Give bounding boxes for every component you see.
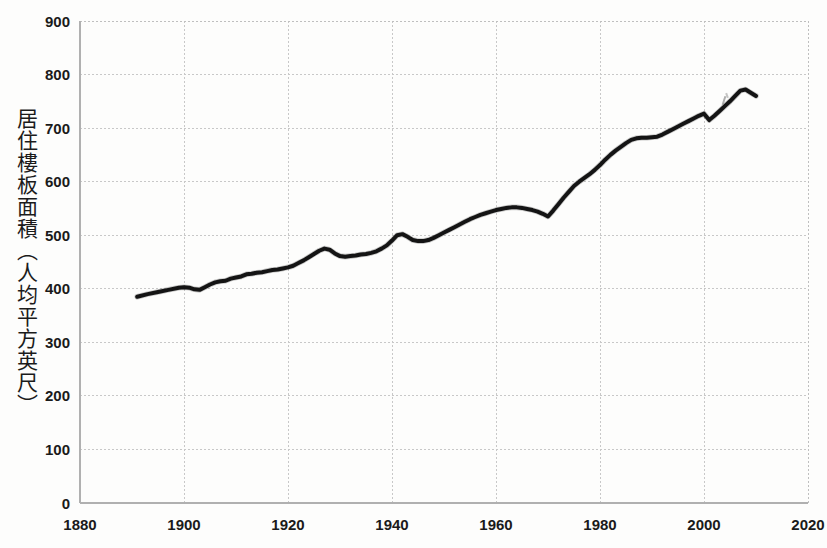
x-tick-label: 1900: [167, 516, 200, 533]
gridlines-group: [80, 21, 808, 503]
x-tick-label: 1920: [271, 516, 304, 533]
chart-figure: 居住樓板面積（人均平方英尺） 0100200300400500600700800…: [0, 0, 827, 548]
y-tick-label: 200: [45, 387, 70, 404]
y-tick-label: 800: [45, 66, 70, 83]
plot-border: [80, 21, 808, 503]
x-tick-label: 2020: [791, 516, 824, 533]
y-tick-label: 300: [45, 334, 70, 351]
y-tick-label: 600: [45, 173, 70, 190]
x-tick-label-group: 18801900192019401960198020002020: [63, 516, 824, 533]
x-tick-label: 1940: [375, 516, 408, 533]
y-tick-label: 900: [45, 13, 70, 30]
x-tick-label: 1960: [479, 516, 512, 533]
series-line: [137, 90, 756, 297]
line-chart-plot: 0100200300400500600700800900 18801900192…: [0, 0, 827, 548]
x-tick-label: 2000: [687, 516, 720, 533]
y-tick-label: 700: [45, 120, 70, 137]
y-tick-label: 400: [45, 280, 70, 297]
y-tick-label: 0: [62, 495, 70, 512]
y-tick-label-group: 0100200300400500600700800900: [45, 13, 70, 512]
data-series-group: [137, 90, 756, 297]
series-line-halo: [137, 90, 756, 297]
x-tick-label: 1880: [63, 516, 96, 533]
x-tick-label: 1980: [583, 516, 616, 533]
y-tick-label: 100: [45, 441, 70, 458]
y-tick-label: 500: [45, 227, 70, 244]
